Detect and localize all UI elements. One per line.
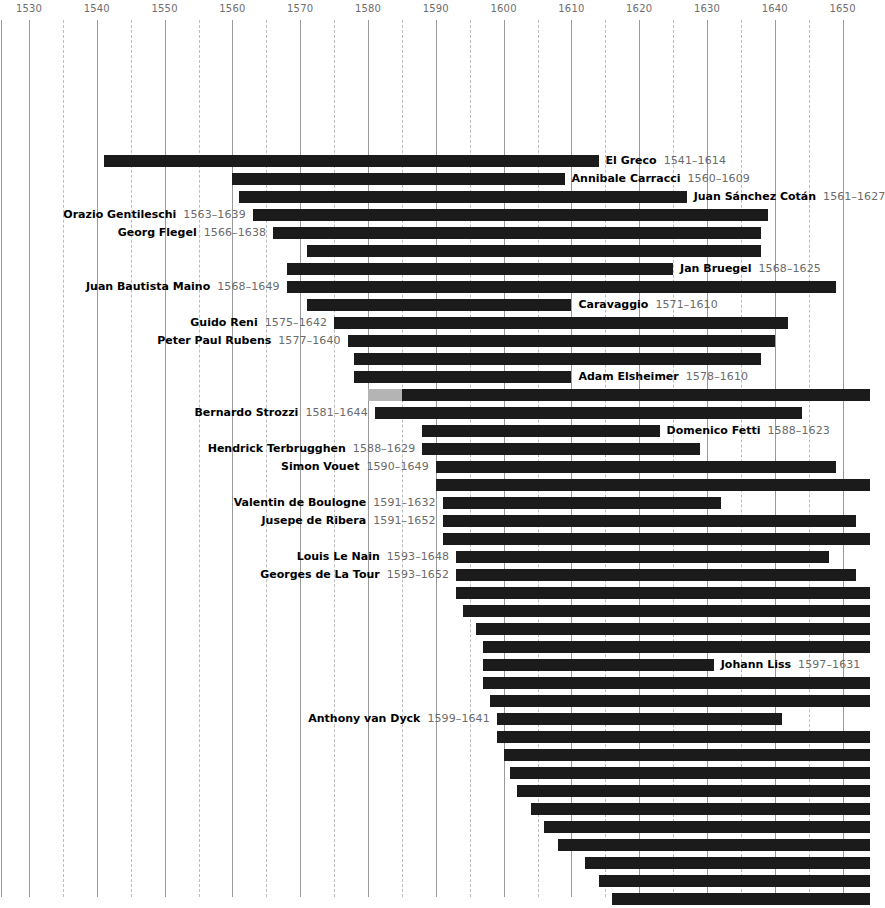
timeline-bar[interactable] xyxy=(436,479,870,491)
timeline-bar[interactable] xyxy=(104,155,599,167)
timeline-bar[interactable] xyxy=(436,461,836,473)
timeline-row-label: Domenico Fetti1588–1623 xyxy=(667,424,830,438)
timeline-bar[interactable] xyxy=(402,389,870,401)
timeline-row-unlabeled[interactable] xyxy=(0,782,871,800)
timeline-bar[interactable] xyxy=(497,731,870,743)
timeline-bar[interactable] xyxy=(456,587,870,599)
timeline-row-unlabeled[interactable] xyxy=(0,674,871,692)
timeline-bar[interactable] xyxy=(558,839,870,851)
timeline-bar[interactable] xyxy=(456,569,856,581)
timeline-row-unlabeled[interactable] xyxy=(0,800,871,818)
timeline-bar[interactable] xyxy=(504,749,870,761)
timeline-row-unlabeled[interactable] xyxy=(0,638,871,656)
timeline-row-unlabeled[interactable] xyxy=(0,836,871,854)
timeline-bar[interactable] xyxy=(307,299,571,311)
timeline-row[interactable]: El Greco1541–1614 xyxy=(0,152,871,170)
artist-lifespan-years: 1568–1649 xyxy=(217,280,279,293)
timeline-row[interactable]: Bernardo Strozzi1581–1644 xyxy=(0,404,871,422)
timeline-row[interactable]: Caravaggio1571–1610 xyxy=(0,296,871,314)
timeline-bar[interactable] xyxy=(348,335,775,347)
timeline-row-unlabeled[interactable] xyxy=(0,584,871,602)
timeline-row[interactable]: Domenico Fetti1588–1623 xyxy=(0,422,871,440)
timeline-row-label: Adam Elsheimer1578–1610 xyxy=(578,370,748,384)
timeline-bar[interactable] xyxy=(375,407,802,419)
timeline-row-unlabeled[interactable] xyxy=(0,890,871,908)
timeline-bar[interactable] xyxy=(463,605,870,617)
timeline-bar[interactable] xyxy=(443,497,721,509)
timeline-row-unlabeled[interactable] xyxy=(0,872,871,890)
timeline-row[interactable]: Annibale Carracci1560–1609 xyxy=(0,170,871,188)
timeline-row-label: Georges de La Tour1593–1652 xyxy=(260,568,449,582)
timeline-bar[interactable] xyxy=(232,173,564,185)
timeline-row[interactable]: Juan Sánchez Cotán1561–1627 xyxy=(0,188,871,206)
timeline-bar[interactable] xyxy=(585,857,870,869)
timeline-row[interactable]: Guido Reni1575–1642 xyxy=(0,314,871,332)
timeline-bar[interactable] xyxy=(483,659,714,671)
timeline-bar-highlight[interactable] xyxy=(368,389,402,401)
timeline-bar[interactable] xyxy=(354,353,761,365)
timeline-row[interactable]: Orazio Gentileschi1563–1639 xyxy=(0,206,871,224)
timeline-row-label: Jusepe de Ribera1591–1652 xyxy=(262,514,436,528)
timeline-bar[interactable] xyxy=(599,875,870,887)
timeline-row-unlabeled[interactable] xyxy=(0,242,871,260)
timeline-row-unlabeled[interactable] xyxy=(0,386,871,404)
timeline-row-label: Bernardo Strozzi1581–1644 xyxy=(194,406,367,420)
timeline-row-unlabeled[interactable] xyxy=(0,350,871,368)
timeline-bar[interactable] xyxy=(287,281,836,293)
timeline-bar[interactable] xyxy=(531,803,870,815)
timeline-bar[interactable] xyxy=(490,695,870,707)
timeline-bar[interactable] xyxy=(273,227,761,239)
timeline-bar[interactable] xyxy=(544,821,869,833)
timeline-bar[interactable] xyxy=(287,263,673,275)
artist-lifespan-years: 1593–1648 xyxy=(387,550,449,563)
timeline-row-unlabeled[interactable] xyxy=(0,692,871,710)
artist-lifespan-years: 1541–1614 xyxy=(664,154,726,167)
timeline-bar[interactable] xyxy=(307,245,761,257)
timeline-bar[interactable] xyxy=(483,641,869,653)
timeline-row[interactable]: Georg Flegel1566–1638 xyxy=(0,224,871,242)
timeline-bar[interactable] xyxy=(443,533,870,545)
timeline-bar[interactable] xyxy=(476,623,869,635)
timeline-row-unlabeled[interactable] xyxy=(0,854,871,872)
timeline-row-unlabeled[interactable] xyxy=(0,476,871,494)
timeline-bar[interactable] xyxy=(422,443,700,455)
timeline-row[interactable]: Georges de La Tour1593–1652 xyxy=(0,566,871,584)
timeline-row[interactable]: Louis Le Nain1593–1648 xyxy=(0,548,871,566)
timeline-bar[interactable] xyxy=(456,551,829,563)
timeline-bar[interactable] xyxy=(354,371,571,383)
timeline-bar[interactable] xyxy=(253,209,768,221)
timeline-row[interactable]: Adam Elsheimer1578–1610 xyxy=(0,368,871,386)
timeline-row[interactable]: Jan Bruegel1568–1625 xyxy=(0,260,871,278)
timeline-bar[interactable] xyxy=(510,767,869,779)
timeline-row[interactable]: Hendrick Terbrugghen1588–1629 xyxy=(0,440,871,458)
timeline-row-unlabeled[interactable] xyxy=(0,764,871,782)
timeline-bar[interactable] xyxy=(497,713,782,725)
artist-name: Bernardo Strozzi xyxy=(194,406,298,419)
timeline-bar[interactable] xyxy=(334,317,788,329)
timeline-row-unlabeled[interactable] xyxy=(0,530,871,548)
timeline-bar[interactable] xyxy=(517,785,870,797)
timeline-row-unlabeled[interactable] xyxy=(0,746,871,764)
timeline-bar[interactable] xyxy=(612,893,870,905)
timeline-row[interactable]: Peter Paul Rubens1577–1640 xyxy=(0,332,871,350)
timeline-row[interactable]: Valentin de Boulogne1591–1632 xyxy=(0,494,871,512)
artist-lifespan-years: 1581–1644 xyxy=(305,406,367,419)
timeline-row[interactable]: Jusepe de Ribera1591–1652 xyxy=(0,512,871,530)
timeline-bar[interactable] xyxy=(443,515,857,527)
timeline-bar[interactable] xyxy=(483,677,869,689)
timeline-row[interactable]: Anthony van Dyck1599–1641 xyxy=(0,710,871,728)
timeline-row[interactable]: Juan Bautista Maino1568–1649 xyxy=(0,278,871,296)
timeline-row-unlabeled[interactable] xyxy=(0,728,871,746)
artist-lifespan-years: 1588–1623 xyxy=(767,424,829,437)
timeline-row-unlabeled[interactable] xyxy=(0,602,871,620)
timeline-bar[interactable] xyxy=(239,191,686,203)
timeline-bar[interactable] xyxy=(422,425,659,437)
timeline-row-unlabeled[interactable] xyxy=(0,818,871,836)
artist-lifespan-years: 1566–1638 xyxy=(204,226,266,239)
timeline-row-unlabeled[interactable] xyxy=(0,620,871,638)
artist-lifespan-years: 1575–1642 xyxy=(265,316,327,329)
timeline-row[interactable]: Simon Vouet1590–1649 xyxy=(0,458,871,476)
timeline-row[interactable]: Johann Liss1597–1631 xyxy=(0,656,871,674)
artist-lifespan-years: 1560–1609 xyxy=(688,172,750,185)
